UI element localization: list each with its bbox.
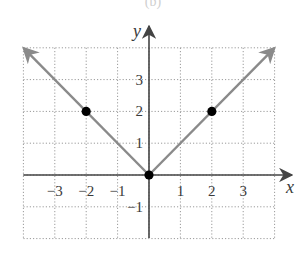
figure-caption: (b) [145, 0, 162, 10]
x-tick-label: 3 [239, 183, 247, 199]
y-tick-label: 1 [136, 135, 144, 151]
y-axis-label: y [131, 21, 141, 41]
axes [23, 26, 292, 238]
absolute-value-graph: (b) −3−2−1123−1123 x y [0, 0, 307, 268]
y-tick-label: −1 [127, 199, 143, 215]
x-tick-label: 1 [177, 183, 185, 199]
data-point [82, 107, 91, 116]
x-tick-label: 2 [208, 183, 216, 199]
tick-labels: −3−2−1123−1123 [47, 72, 247, 215]
x-tick-label: −1 [110, 183, 126, 199]
x-tick-label: −2 [78, 183, 94, 199]
data-point [144, 170, 153, 179]
y-tick-label: 3 [136, 72, 144, 88]
x-tick-label: −3 [47, 183, 63, 199]
data-point [207, 107, 216, 116]
y-tick-label: 2 [136, 103, 144, 119]
x-axis-label: x [285, 177, 294, 197]
